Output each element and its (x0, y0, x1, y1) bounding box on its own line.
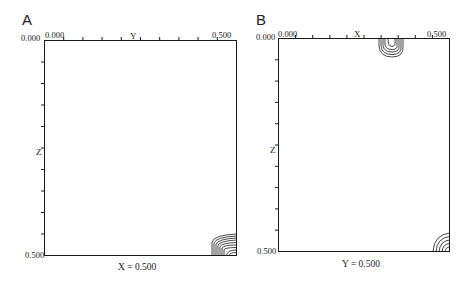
panel-a-contour-corner (212, 234, 237, 256)
panel-b-contour-corner (433, 233, 450, 252)
panel-a-frame (45, 41, 237, 256)
contour-plots (0, 0, 469, 285)
panel-b-x-ticks (296, 35, 433, 39)
panel-a-z-ticks (41, 62, 45, 234)
panel-b-frame (279, 39, 450, 252)
panel-a-x-ticks (64, 37, 218, 41)
panel-b-contour-top (379, 39, 403, 58)
panel-b-z-ticks (275, 60, 279, 230)
